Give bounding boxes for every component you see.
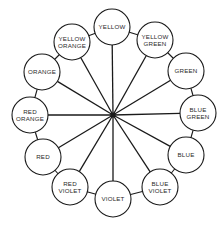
node-label: GREEN <box>143 40 166 47</box>
color-node-red-violet: REDVIOLET <box>52 169 88 205</box>
spoke <box>112 45 113 115</box>
node-label: GREEN <box>186 113 209 120</box>
color-node-orange: ORANGE <box>24 54 60 90</box>
color-node-yellow: YELLOW <box>94 9 130 45</box>
color-node-yellow-green: YELLOWGREEN <box>137 22 173 58</box>
node-label: VIOLET <box>58 187 81 194</box>
node-label: BLUE <box>190 106 207 113</box>
color-node-blue-green: BLUEGREEN <box>180 95 216 131</box>
color-node-red: RED <box>25 139 61 175</box>
spoke <box>58 115 113 148</box>
node-label: BLUE <box>178 151 195 158</box>
node-label: VIOLET <box>101 195 124 202</box>
spoke <box>113 80 171 115</box>
color-node-yellow-orange: YELLOWORANGE <box>54 24 90 60</box>
node-label: ORANGE <box>16 115 44 122</box>
spoke <box>79 115 113 172</box>
hub-center <box>110 112 115 117</box>
node-label: YELLOW <box>142 33 169 40</box>
node-label: YELLOW <box>59 35 86 42</box>
color-node-blue-violet: BLUEVIOLET <box>142 169 178 205</box>
node-label: RED <box>36 153 50 160</box>
node-label: RED <box>63 180 77 187</box>
spoke <box>113 115 150 172</box>
node-label: BLUE <box>152 180 169 187</box>
spoke <box>113 115 170 146</box>
color-node-green: GREEN <box>168 53 204 89</box>
color-node-red-orange: REDORANGE <box>12 97 48 133</box>
node-label: RED <box>23 108 37 115</box>
node-label: VIOLET <box>148 187 171 194</box>
node-label: ORANGE <box>28 68 56 75</box>
color-wheel-diagram: YELLOWYELLOWGREENGREENBLUEGREENBLUEBLUEV… <box>0 0 224 230</box>
spoke <box>113 113 180 115</box>
spoke <box>113 56 146 115</box>
spoke <box>57 81 113 115</box>
node-label: GREEN <box>174 67 197 74</box>
spoke <box>81 58 113 115</box>
node-label: ORANGE <box>58 42 86 49</box>
node-label: YELLOW <box>99 23 126 30</box>
color-node-blue: BLUE <box>168 137 204 173</box>
color-node-violet: VIOLET <box>95 181 131 217</box>
